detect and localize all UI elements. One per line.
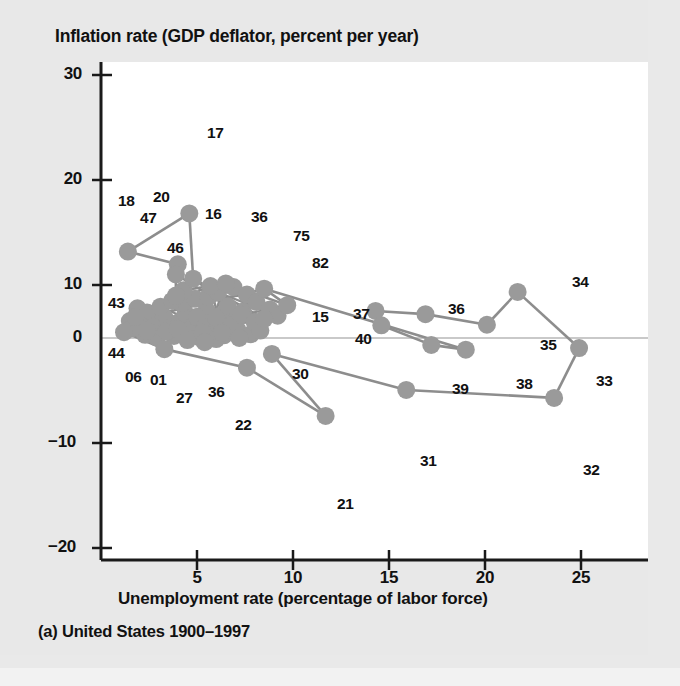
year-point-marker — [119, 243, 137, 261]
point-label-38: 38 — [516, 375, 532, 393]
x-tick-20: 20 — [465, 568, 505, 588]
cluster-point-marker — [213, 324, 231, 342]
year-point-marker — [255, 310, 273, 328]
x-tick-10: 10 — [273, 568, 313, 588]
point-label-31: 31 — [420, 452, 436, 470]
point-label-18: 18 — [118, 192, 134, 210]
y-tick-20: 20 — [36, 169, 82, 189]
figure-caption: (a) United States 1900–1997 — [38, 622, 250, 641]
x-axis-label: Unemployment rate (percentage of labor f… — [118, 589, 488, 609]
point-label-15: 15 — [312, 308, 328, 326]
y-tick-10: 10 — [36, 274, 82, 294]
series-segment — [272, 354, 326, 416]
x-tick-15: 15 — [369, 568, 409, 588]
series-segment — [189, 213, 193, 278]
year-point-marker — [372, 316, 390, 334]
point-label-06: 06 — [125, 368, 141, 386]
year-point-marker — [397, 381, 415, 399]
year-point-marker — [238, 359, 256, 377]
year-point-marker — [155, 340, 173, 358]
point-label-27: 27 — [176, 389, 192, 407]
point-label-75: 75 — [293, 227, 309, 245]
point-label-43: 43 — [108, 294, 124, 312]
year-point-marker — [545, 389, 563, 407]
point-label-01: 01 — [150, 371, 166, 389]
year-point-marker — [167, 265, 185, 283]
year-point-marker — [217, 274, 235, 292]
year-point-marker — [138, 322, 156, 340]
y-tick-neg20: −20 — [30, 537, 76, 557]
point-label-35: 35 — [540, 336, 556, 354]
year-point-marker — [127, 308, 145, 326]
point-label-36-lower: 36 — [208, 383, 224, 401]
x-tick-25: 25 — [561, 568, 601, 588]
year-point-marker — [180, 204, 198, 222]
phillips-curve-figure: Inflation rate (GDP deflator, percent pe… — [0, 0, 680, 686]
point-label-39: 39 — [452, 380, 468, 398]
year-point-marker — [509, 283, 527, 301]
year-point-marker — [570, 339, 588, 357]
y-tick-neg10: −10 — [30, 432, 76, 452]
point-label-33: 33 — [596, 372, 612, 390]
point-label-16: 16 — [205, 205, 221, 223]
year-point-marker — [263, 345, 281, 363]
y-tick-30: 30 — [36, 64, 82, 84]
point-label-47: 47 — [140, 209, 156, 227]
point-label-40: 40 — [355, 330, 371, 348]
point-label-37: 37 — [353, 305, 369, 323]
y-tick-0: 0 — [36, 327, 82, 347]
page-bottom-area — [0, 668, 680, 686]
series-segment — [247, 368, 326, 416]
cluster-point-marker — [230, 329, 248, 347]
year-point-marker — [255, 280, 273, 298]
point-label-34: 34 — [572, 273, 588, 291]
point-label-46: 46 — [167, 239, 183, 257]
point-label-44: 44 — [108, 344, 124, 362]
point-label-17: 17 — [207, 124, 223, 142]
year-point-marker — [278, 296, 296, 314]
year-point-marker — [422, 336, 440, 354]
year-point-marker — [167, 287, 185, 305]
point-label-30: 30 — [292, 365, 308, 383]
year-point-marker — [196, 333, 214, 351]
year-point-marker — [184, 270, 202, 288]
cluster-point-marker — [201, 277, 219, 295]
point-label-32: 32 — [583, 461, 599, 479]
series-segment — [164, 349, 247, 368]
point-label-21: 21 — [337, 495, 353, 513]
cluster-point-marker — [178, 331, 196, 349]
year-point-marker — [115, 323, 133, 341]
point-label-36-right: 36 — [448, 300, 464, 318]
point-label-20: 20 — [153, 188, 169, 206]
point-label-22: 22 — [235, 416, 251, 434]
year-point-marker — [478, 316, 496, 334]
point-label-82: 82 — [312, 254, 328, 272]
point-label-36-upper: 36 — [251, 208, 267, 226]
year-point-marker — [317, 407, 335, 425]
x-tick-5: 5 — [177, 568, 217, 588]
year-point-marker — [416, 305, 434, 323]
year-point-marker — [457, 341, 475, 359]
